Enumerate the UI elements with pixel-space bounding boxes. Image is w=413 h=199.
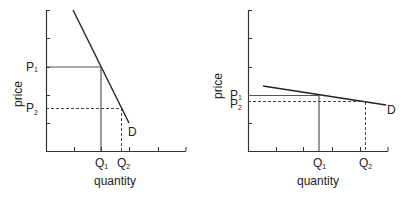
right-y-axis-label: price xyxy=(211,73,225,99)
left-p2-label: P2 xyxy=(26,101,38,116)
demand-elasticity-diagram: price P1 P2 Q1 Q2 quantity D price P1 P2 xyxy=(0,0,413,199)
left-x-axis-label: quantity xyxy=(94,174,136,188)
left-q1-label: Q1 xyxy=(95,156,108,170)
right-x-ticks xyxy=(277,147,389,151)
left-x-ticks xyxy=(75,147,187,151)
left-demand-label: D xyxy=(128,125,137,139)
left-p1-label: P1 xyxy=(26,60,38,74)
left-chart xyxy=(46,10,186,152)
right-q1-label: Q1 xyxy=(313,156,326,170)
left-q2-label: Q2 xyxy=(117,156,130,170)
right-chart xyxy=(248,10,388,152)
left-y-axis-label: price xyxy=(11,81,25,107)
right-demand-label: D xyxy=(387,103,396,117)
right-x-axis-label: quantity xyxy=(297,174,339,188)
right-q2-label: Q2 xyxy=(359,156,372,170)
